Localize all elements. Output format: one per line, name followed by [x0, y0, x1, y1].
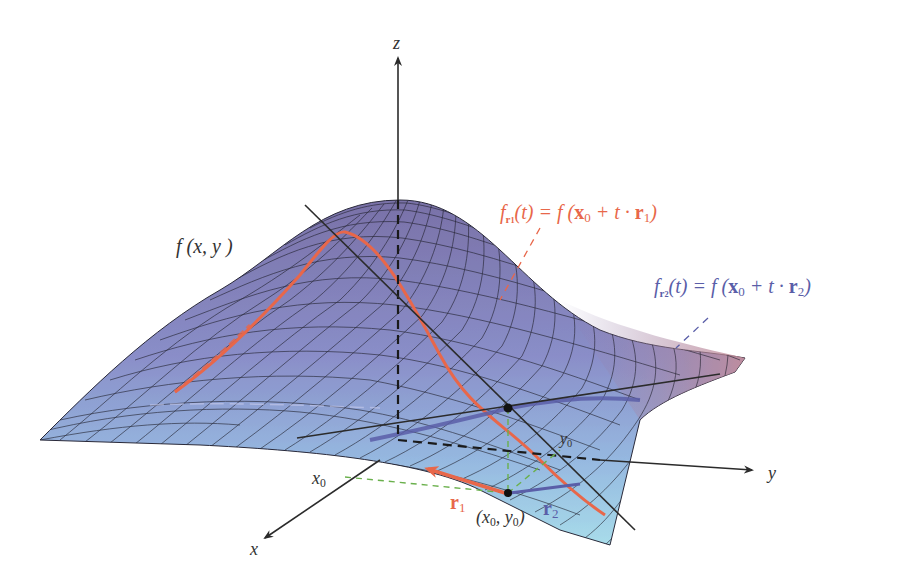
x0-label: x0	[312, 469, 326, 490]
fr1-plus: + t ·	[591, 201, 635, 223]
z-axis-label: z	[393, 34, 400, 52]
fr1-r: r	[635, 201, 644, 223]
fr2-formula: fr2(t) = f (x0 + t · r2)	[654, 276, 811, 299]
r2-r: r	[543, 497, 552, 519]
y-axis-label: y	[768, 464, 776, 482]
y0-sub: 0	[567, 438, 572, 449]
base-point	[504, 489, 512, 497]
fr2-rhs: (t) = f (	[669, 275, 729, 297]
r1-r: r	[450, 491, 459, 513]
figure-canvas: z y x f (x, y ) fr1(t) = f (x0 + t · r1)…	[0, 0, 898, 576]
fr1-formula: fr1(t) = f (x0 + t · r1)	[500, 202, 657, 225]
surface-label: f (x, y )	[176, 236, 233, 256]
y0-label: y0	[560, 431, 572, 449]
point-close: )	[519, 507, 525, 527]
point-label: (x0, y0)	[476, 508, 525, 529]
surface-mesh	[40, 200, 745, 545]
r1-sub: 1	[459, 500, 466, 515]
point-open: (x	[476, 507, 490, 527]
r2-label: r2	[543, 498, 558, 520]
r2-sub: 2	[552, 506, 559, 521]
surface-point	[504, 404, 513, 413]
fr1-close: )	[650, 201, 657, 223]
fr2-x0: x	[728, 275, 738, 297]
r1-label: r1	[450, 492, 465, 514]
x-axis-label: x	[250, 540, 258, 558]
point-mid: , y	[496, 507, 513, 527]
x0-sub: 0	[320, 477, 326, 490]
fr2-close: )	[804, 275, 811, 297]
fr2-plus: + t ·	[745, 275, 789, 297]
fr1-rhs: (t) = f (	[515, 201, 575, 223]
fr1-x0: x	[574, 201, 584, 223]
x0-x: x	[312, 468, 320, 488]
fr2-r: r	[789, 275, 798, 297]
